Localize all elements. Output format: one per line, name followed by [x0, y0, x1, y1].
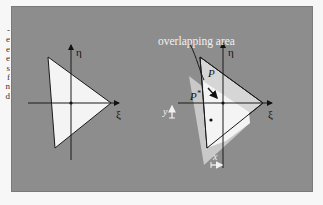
y-label: y	[162, 106, 168, 117]
origin-point	[221, 101, 224, 104]
xi-label: ξ	[116, 108, 121, 121]
diagram-canvas: η ξ overlapping area η ξ P P* y x	[0, 0, 323, 205]
right-diagram: overlapping area η ξ P P* y x	[158, 35, 273, 168]
eta-label: η	[76, 46, 82, 58]
p-star-superscript: *	[197, 89, 201, 98]
origin-point	[69, 101, 72, 104]
shifted-center-point	[209, 118, 212, 121]
left-diagram: η ξ	[28, 45, 121, 160]
x-label: x	[212, 151, 218, 162]
p-label: P	[207, 67, 215, 79]
eta-label: η	[228, 46, 234, 58]
overlapping-area-label: overlapping area	[158, 35, 235, 48]
xi-label: ξ	[268, 108, 273, 121]
